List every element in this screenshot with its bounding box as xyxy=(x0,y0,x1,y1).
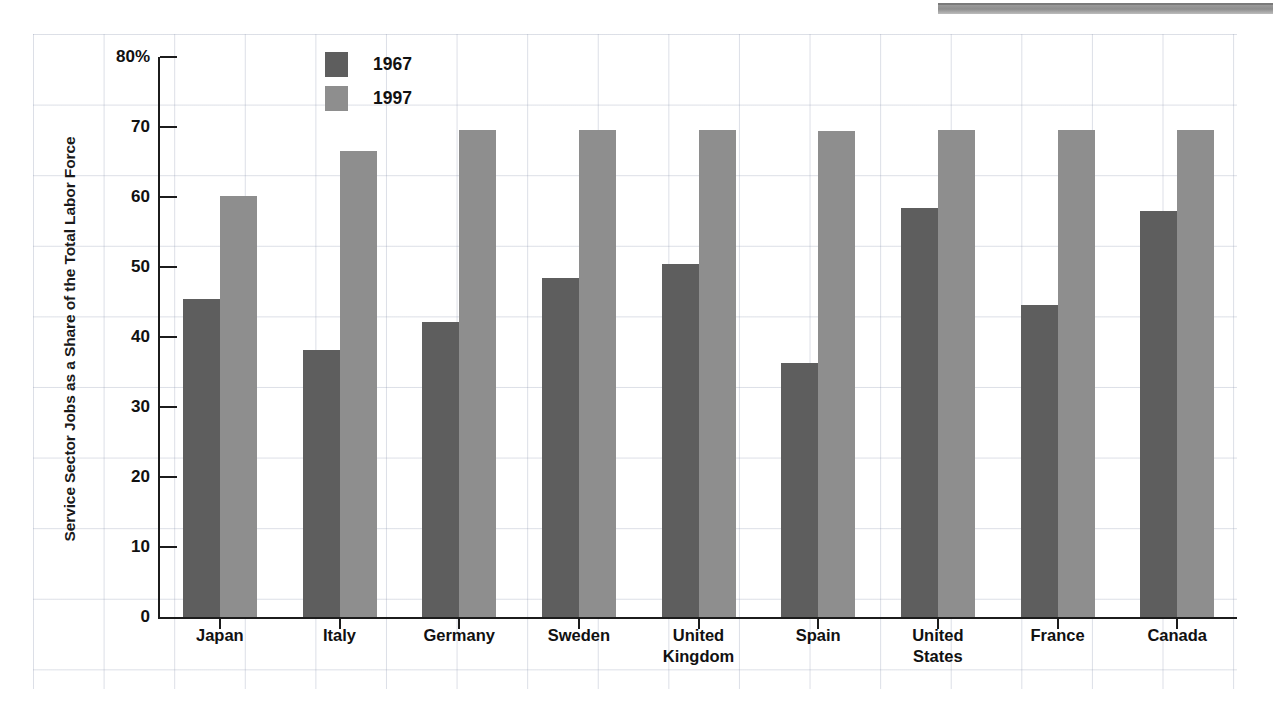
x-axis-category-label: Italy xyxy=(280,625,400,667)
y-axis-tick-label: 60 xyxy=(92,187,150,207)
bar-1997 xyxy=(1058,130,1095,617)
bar-1967 xyxy=(662,264,699,618)
bar-1997 xyxy=(938,130,975,617)
y-axis-tick-mark xyxy=(160,546,177,548)
x-axis-category-label: United Kingdom xyxy=(639,625,759,667)
y-axis-tick-label: 50 xyxy=(92,257,150,277)
x-axis-category-label: Spain xyxy=(758,625,878,667)
bar-groups xyxy=(160,57,1237,617)
bar-1967 xyxy=(183,299,220,618)
y-axis-tick-mark xyxy=(160,196,177,198)
y-axis-tick-mark xyxy=(160,266,177,268)
bar-group xyxy=(758,57,878,617)
y-axis-tick-label: 10 xyxy=(92,537,150,557)
bar-1967 xyxy=(781,363,818,617)
bar-group xyxy=(1117,57,1237,617)
y-axis-tick-labels: 01020304050607080% xyxy=(92,48,150,628)
y-axis-tick-mark xyxy=(160,406,177,408)
y-axis-tick-label: 70 xyxy=(92,117,150,137)
legend-item-1997: 1997 xyxy=(325,81,475,115)
bar-group xyxy=(998,57,1118,617)
bar-1967 xyxy=(901,208,938,618)
y-axis-tick-mark xyxy=(160,126,177,128)
y-axis-tick-label: 40 xyxy=(92,327,150,347)
legend-label-1967: 1967 xyxy=(373,54,412,75)
bar-1997 xyxy=(579,130,616,617)
x-axis-category-label: Japan xyxy=(160,625,280,667)
chart-page: Service Sector Jobs as a Share of the To… xyxy=(0,0,1273,723)
y-axis-tick-label: 30 xyxy=(92,397,150,417)
x-axis-category-label: United States xyxy=(878,625,998,667)
y-axis-tick-mark xyxy=(160,476,177,478)
bar-1997 xyxy=(699,130,736,617)
bar-1967 xyxy=(1021,305,1058,617)
x-axis-tick-labels: JapanItalyGermanySwedenUnited KingdomSpa… xyxy=(160,625,1237,667)
legend-swatch-icon-1967 xyxy=(325,52,348,77)
bar-1967 xyxy=(1140,211,1177,617)
x-axis-category-label: Canada xyxy=(1117,625,1237,667)
bar-1967 xyxy=(422,322,459,617)
chart-legend: 1967 1997 xyxy=(325,47,475,115)
legend-swatch-icon-1997 xyxy=(325,86,348,111)
bar-1997 xyxy=(1177,130,1214,617)
y-axis-tick-label: 0 xyxy=(92,607,150,627)
y-axis-tick-mark xyxy=(160,336,177,338)
y-axis-tick-label: 20 xyxy=(92,467,150,487)
bar-group xyxy=(399,57,519,617)
bar-chart: Service Sector Jobs as a Share of the To… xyxy=(0,0,1273,723)
bar-1967 xyxy=(303,350,340,617)
bar-group xyxy=(160,57,280,617)
plot-area xyxy=(158,57,1237,617)
x-axis-category-label: France xyxy=(998,625,1118,667)
y-axis-tick-mark xyxy=(160,56,177,58)
bar-group xyxy=(519,57,639,617)
bar-1997 xyxy=(220,196,257,617)
x-axis-category-label: Sweden xyxy=(519,625,639,667)
bar-group xyxy=(639,57,759,617)
bar-1997 xyxy=(340,151,377,617)
y-axis-title: Service Sector Jobs as a Share of the To… xyxy=(61,59,79,619)
bar-group xyxy=(280,57,400,617)
bar-1997 xyxy=(818,131,855,618)
legend-label-1997: 1997 xyxy=(373,88,412,109)
bar-group xyxy=(878,57,998,617)
bar-1967 xyxy=(542,278,579,617)
x-axis-category-label: Germany xyxy=(399,625,519,667)
legend-item-1967: 1967 xyxy=(325,47,475,81)
bar-1997 xyxy=(459,130,496,617)
y-axis-tick-label: 80% xyxy=(92,47,150,67)
